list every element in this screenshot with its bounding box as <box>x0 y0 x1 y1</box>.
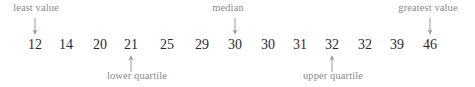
five-number-summary-figure: 12142021252930303132323946 least valueme… <box>0 0 475 87</box>
data-value: 39 <box>390 36 404 54</box>
data-value: 32 <box>325 36 339 54</box>
data-value: 14 <box>59 36 73 54</box>
greatest-value-arrow-icon <box>425 18 436 35</box>
data-value: 25 <box>160 36 174 54</box>
data-value: 30 <box>261 36 275 54</box>
upper-quartile-arrow-icon <box>327 55 338 72</box>
greatest-value-label: greatest value <box>398 2 457 13</box>
data-value: 29 <box>195 36 209 54</box>
data-value: 12 <box>28 36 42 54</box>
data-value: 20 <box>93 36 107 54</box>
median-arrow-icon <box>230 18 241 35</box>
lower-quartile-arrow-icon <box>126 55 137 72</box>
lower-quartile-label: lower quartile <box>107 70 167 81</box>
least-value-arrow-icon <box>30 18 41 35</box>
data-value: 30 <box>228 36 242 54</box>
data-value: 21 <box>124 36 138 54</box>
data-value: 46 <box>423 36 437 54</box>
data-value: 31 <box>293 36 307 54</box>
sorted-data-row: 12142021252930303132323946 <box>0 36 475 56</box>
data-value: 32 <box>358 36 372 54</box>
least-value-label: least value <box>13 2 59 13</box>
median-label: median <box>212 2 244 13</box>
